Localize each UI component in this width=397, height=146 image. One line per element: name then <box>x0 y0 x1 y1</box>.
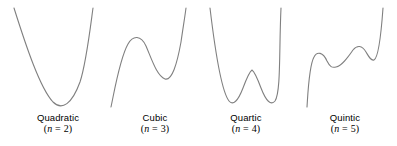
degree-paren-close: ) <box>166 123 170 134</box>
panel-name-quadratic: Quadratic <box>16 112 100 123</box>
degree-equals: = <box>52 123 63 134</box>
degree-equals: = <box>240 123 251 134</box>
degree-paren-close: ) <box>356 123 360 134</box>
panel-degree-quadratic: (n = 2) <box>16 123 100 134</box>
curve-quadratic <box>14 8 93 106</box>
degree-paren-close: ) <box>69 123 73 134</box>
panel-caption-quadratic: Quadratic (n = 2) <box>16 112 100 134</box>
panel-caption-quintic: Quintic (n = 5) <box>305 112 385 134</box>
panel-degree-quartic: (n = 4) <box>206 123 286 134</box>
panel-degree-quintic: (n = 5) <box>305 123 385 134</box>
panel-caption-cubic: Cubic (n = 3) <box>117 112 193 134</box>
polynomial-degree-figure: Quadratic (n = 2) Cubic (n = 3) Quartic … <box>0 0 397 146</box>
curve-quartic <box>210 8 281 103</box>
curve-cubic <box>111 8 186 107</box>
panel-name-quartic: Quartic <box>206 112 286 123</box>
panel-name-quintic: Quintic <box>305 112 385 123</box>
degree-paren-close: ) <box>257 123 261 134</box>
panel-name-cubic: Cubic <box>117 112 193 123</box>
panel-caption-quartic: Quartic (n = 4) <box>206 112 286 134</box>
panel-degree-cubic: (n = 3) <box>117 123 193 134</box>
curve-quintic <box>307 8 383 107</box>
degree-equals: = <box>339 123 350 134</box>
degree-equals: = <box>149 123 160 134</box>
